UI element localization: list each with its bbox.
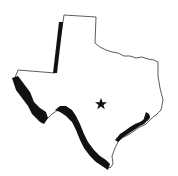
texas-map: [0, 0, 178, 176]
